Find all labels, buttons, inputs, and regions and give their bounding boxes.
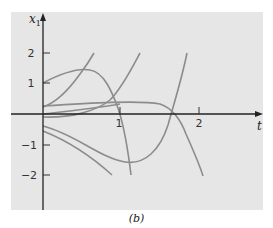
figure-caption: (b): [0, 212, 273, 225]
curve-4: [43, 102, 203, 176]
x-axis-label: t: [257, 119, 262, 133]
chart-plot: 2 1 −1 −2 1 2 t x1: [0, 0, 273, 228]
y-tick-neg2: −2: [21, 169, 37, 182]
y-tick-neg1: −1: [21, 139, 37, 152]
curve-5: [43, 53, 187, 162]
y-tick-1: 1: [28, 77, 35, 90]
axes: [11, 18, 258, 210]
x-tick-2: 2: [196, 117, 203, 130]
y-axis-arrow-icon: [40, 13, 46, 21]
x-tick-1: 1: [116, 117, 123, 130]
y-axis-label: x1: [29, 12, 41, 28]
x-axis-arrow-icon: [255, 111, 263, 117]
y-tick-2: 2: [28, 47, 35, 60]
